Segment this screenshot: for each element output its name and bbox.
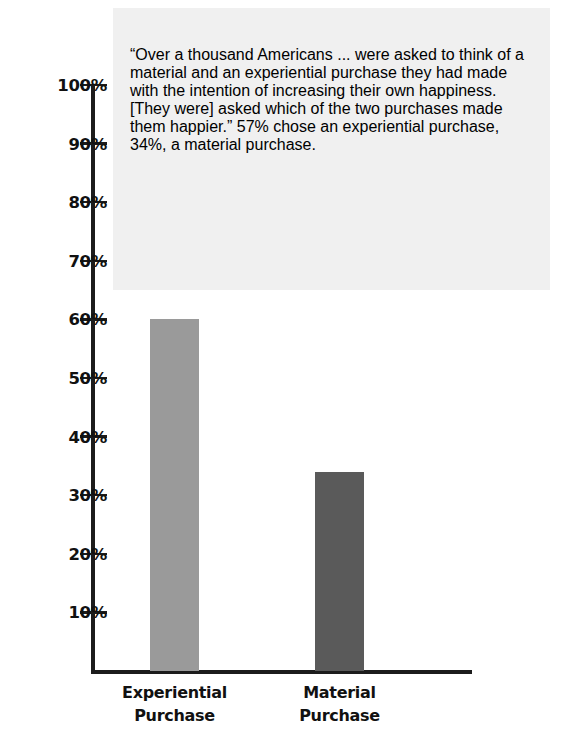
bar-experiential-purchase[interactable]	[150, 319, 199, 671]
category-label-line: Purchase	[90, 705, 260, 728]
category-label-line: Experiential	[122, 683, 227, 702]
x-axis-line	[91, 670, 472, 674]
y-tick-label: 80%	[33, 193, 107, 212]
bar-fill	[315, 472, 364, 671]
y-tick-label: 20%	[33, 544, 107, 563]
category-label-experiential-purchase: ExperientialPurchase	[90, 682, 260, 727]
y-tick-label: 30%	[33, 486, 107, 505]
y-tick-label: 100%	[33, 76, 107, 95]
y-tick-label: 10%	[33, 603, 107, 622]
bar-material-purchase[interactable]	[315, 472, 364, 671]
y-tick-label: 90%	[33, 134, 107, 153]
y-tick-label: 40%	[33, 427, 107, 446]
bar-fill	[150, 319, 199, 671]
category-label-line: Purchase	[255, 705, 425, 728]
bar-chart: 100%90%80%70%60%50%40%30%20%10% Experien…	[0, 0, 563, 741]
category-label-line: Material	[303, 683, 375, 702]
y-tick-label: 70%	[33, 251, 107, 270]
category-label-material-purchase: MaterialPurchase	[255, 682, 425, 727]
y-tick-label: 50%	[33, 369, 107, 388]
y-tick-label: 60%	[33, 310, 107, 329]
